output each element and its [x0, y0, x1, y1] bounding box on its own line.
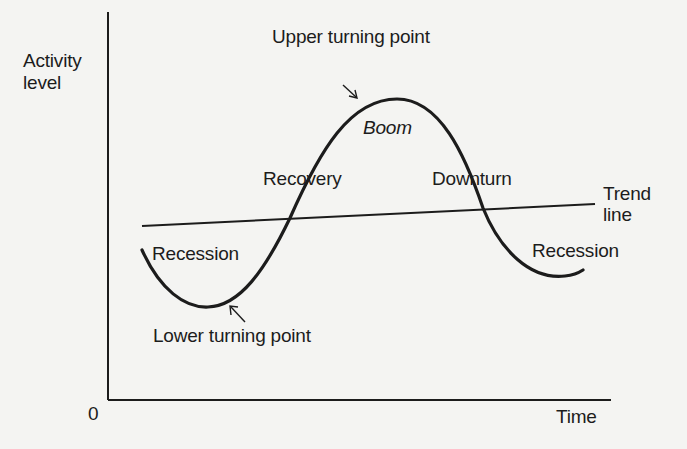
recession-right-label: Recession — [532, 240, 619, 262]
business-cycle-diagram: Activity level 0 Time Upper turning poin… — [0, 0, 687, 449]
diagram-canvas — [0, 0, 687, 449]
recovery-label: Recovery — [263, 168, 342, 190]
trend-line-label-line2: line — [603, 204, 632, 226]
y-axis-label-line2: level — [23, 72, 61, 94]
recession-left-label: Recession — [152, 243, 239, 265]
origin-label: 0 — [88, 403, 98, 425]
upper-turning-point-arrow — [343, 85, 357, 98]
downturn-label: Downturn — [432, 168, 512, 190]
x-axis-label: Time — [556, 406, 597, 428]
trend-line — [142, 204, 595, 226]
lower-turning-point-label: Lower turning point — [153, 325, 311, 347]
upper-turning-point-label: Upper turning point — [272, 26, 430, 48]
lower-turning-point-arrow — [230, 306, 245, 322]
y-axis-label-line1: Activity — [23, 50, 82, 72]
trend-line-label-line1: Trend — [603, 183, 651, 205]
boom-label: Boom — [363, 117, 412, 139]
